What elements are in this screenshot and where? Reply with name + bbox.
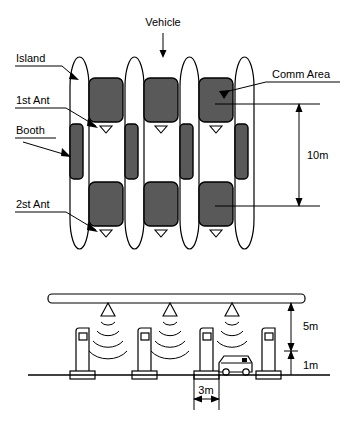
side-antenna-2 bbox=[151, 303, 189, 359]
booth-annotation: Booth bbox=[15, 124, 71, 157]
comm-area-lane1-second bbox=[89, 182, 123, 226]
antenna-triangle-icon-3b bbox=[210, 230, 222, 237]
top-view-group: Vehicle Island 1st Ant Booth bbox=[15, 16, 340, 249]
second-antenna-annotation: 2st Ant bbox=[15, 198, 98, 232]
car-wheel-front bbox=[223, 369, 229, 375]
comm-area-bottom-row bbox=[89, 182, 233, 226]
comm-area-top-row bbox=[89, 78, 233, 122]
antenna-triangle-icon-side-3 bbox=[225, 303, 239, 316]
car-window-marker bbox=[242, 358, 247, 362]
second-antenna-label: 2st Ant bbox=[16, 198, 50, 210]
island-label: Island bbox=[16, 52, 45, 64]
comm-area-lane3-first bbox=[199, 78, 233, 122]
radio-wave-icon-2 bbox=[151, 322, 189, 359]
radio-wave-icon-3 bbox=[217, 322, 247, 347]
first-antenna-annotation: 1st Ant bbox=[15, 94, 98, 128]
vehicle-label: Vehicle bbox=[145, 16, 180, 28]
car-wheel-rear bbox=[243, 369, 249, 375]
diagram-root: Vehicle Island 1st Ant Booth bbox=[0, 0, 354, 434]
side-antenna-3 bbox=[217, 303, 247, 347]
antenna-triangle-icon-1b bbox=[100, 230, 112, 237]
antenna-triangle-icon-side-1 bbox=[101, 303, 115, 316]
antenna-triangle-icon-2a bbox=[155, 126, 167, 133]
booth-2 bbox=[125, 124, 138, 179]
toll-plaza-diagram: Vehicle Island 1st Ant Booth bbox=[0, 0, 354, 434]
comm-area-lane2-second bbox=[144, 182, 178, 226]
dimension-10m-label: 10m bbox=[307, 149, 328, 161]
booth-3 bbox=[180, 124, 193, 179]
side-booth-3 bbox=[194, 328, 219, 379]
radio-wave-icon-1 bbox=[89, 322, 127, 359]
car-icon bbox=[219, 356, 252, 375]
booth-label: Booth bbox=[16, 124, 45, 136]
antenna-triangle-icon-1a bbox=[100, 126, 112, 133]
gantry-beam-icon bbox=[48, 294, 305, 303]
first-antenna-label: 1st Ant bbox=[16, 94, 50, 106]
dimension-1m: 1m bbox=[288, 350, 319, 375]
comm-area-lane3-second bbox=[199, 182, 233, 226]
antenna-markers-second bbox=[100, 230, 222, 237]
vehicle-annotation: Vehicle bbox=[145, 16, 180, 58]
comm-area-lane1-first bbox=[89, 78, 123, 122]
antenna-triangle-icon-3a bbox=[210, 126, 222, 133]
comm-area-lane2-first bbox=[144, 78, 178, 122]
booth-group bbox=[70, 124, 248, 179]
side-antenna-1 bbox=[89, 303, 127, 359]
booth-4 bbox=[235, 124, 248, 179]
dimension-5m-label: 5m bbox=[303, 320, 318, 332]
dimension-3m-label: 3m bbox=[198, 384, 213, 396]
dimension-5m: 5m bbox=[284, 302, 318, 352]
down-arrow-icon bbox=[160, 50, 167, 58]
dimension-1m-label: 1m bbox=[303, 359, 318, 371]
island-annotation: Island bbox=[15, 52, 79, 80]
antenna-markers-first bbox=[100, 126, 222, 133]
comm-area-label: Comm Area bbox=[272, 68, 331, 80]
side-view-group: 5m 1m 3m bbox=[28, 294, 330, 410]
antenna-triangle-icon-2b bbox=[155, 230, 167, 237]
comm-area-annotation: Comm Area bbox=[219, 68, 340, 99]
booth-1 bbox=[70, 124, 83, 179]
side-booth-4 bbox=[256, 328, 281, 379]
antenna-triangle-icon-side-2 bbox=[163, 303, 177, 316]
